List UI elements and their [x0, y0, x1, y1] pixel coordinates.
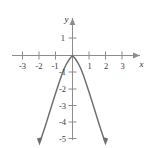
coordinate-plane: -3 -2 -1 1 2 3 1 -1 -2 -3 -4 -5 y x — [0, 0, 158, 148]
curve-left-arrowhead-icon — [37, 137, 43, 146]
y-tick-label-neg2: -2 — [59, 84, 66, 94]
y-axis-arrowhead-icon — [70, 18, 76, 25]
x-axis-label: x — [139, 59, 144, 69]
y-tick-label-neg1: -1 — [59, 67, 66, 77]
y-tick-label-neg3: -3 — [59, 101, 66, 111]
y-axis-label: y — [64, 14, 69, 24]
parabola-figure: -3 -2 -1 1 2 3 1 -1 -2 -3 -4 -5 y x — [0, 0, 158, 148]
x-tick-label-neg2: -2 — [35, 61, 42, 71]
x-tick-label-pos2: 2 — [104, 61, 108, 71]
x-axis-arrowhead-icon — [133, 53, 140, 59]
y-tick-label-neg4: -4 — [59, 117, 67, 127]
x-tick-label-neg3: -3 — [19, 61, 26, 71]
x-tick-label-pos3: 3 — [120, 61, 124, 71]
curve-right-arrowhead-icon — [103, 137, 109, 146]
y-tick-label-pos1: 1 — [61, 33, 65, 43]
x-tick-label-pos1: 1 — [87, 61, 91, 71]
y-tick-label-neg5: -5 — [59, 134, 66, 144]
x-tick-label-neg1: -1 — [51, 61, 58, 71]
